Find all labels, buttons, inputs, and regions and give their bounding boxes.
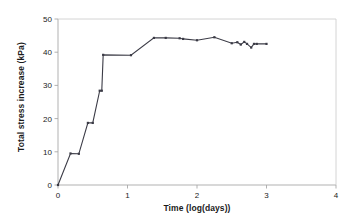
data-point-marker	[165, 37, 167, 39]
y-tick-label: 20	[43, 115, 52, 124]
data-point-marker	[253, 43, 255, 45]
data-point-marker	[265, 43, 267, 45]
x-tick-label: 3	[264, 191, 269, 200]
x-tick-group: 01234	[56, 185, 339, 200]
plot-frame	[58, 19, 336, 185]
y-tick-label: 0	[48, 181, 53, 190]
data-point-marker	[99, 90, 101, 92]
data-point-marker	[101, 90, 103, 92]
y-tick-label: 30	[43, 81, 52, 90]
data-point-marker	[87, 122, 89, 124]
data-point-marker	[256, 43, 258, 45]
x-tick-label: 0	[56, 191, 61, 200]
y-tick-label: 40	[43, 48, 52, 57]
plot-area: 01020304050 01234	[0, 0, 350, 224]
data-point-marker	[69, 152, 71, 154]
data-point-marker	[243, 41, 245, 43]
data-point-marker	[130, 54, 132, 56]
data-point-marker	[179, 37, 181, 39]
data-point-marker	[240, 43, 242, 45]
chart-figure: Total stress increase (kPa) Time (log(da…	[0, 0, 350, 224]
data-point-marker	[182, 38, 184, 40]
data-point-marker	[231, 42, 233, 44]
data-point-marker	[102, 54, 104, 56]
data-point-marker	[92, 122, 94, 124]
series-line	[58, 37, 267, 185]
data-point-marker	[78, 153, 80, 155]
data-point-marker	[246, 43, 248, 45]
y-tick-label: 50	[43, 15, 52, 24]
y-tick-label: 10	[43, 148, 52, 157]
data-point-marker	[196, 39, 198, 41]
data-point-marker	[213, 36, 215, 38]
data-series-group	[57, 36, 268, 186]
y-tick-group: 01020304050	[43, 15, 58, 190]
data-point-marker	[153, 37, 155, 39]
data-point-marker	[236, 41, 238, 43]
x-tick-label: 4	[334, 191, 339, 200]
x-tick-label: 2	[195, 191, 200, 200]
x-tick-label: 1	[125, 191, 130, 200]
series-markers	[57, 36, 268, 186]
data-point-marker	[250, 46, 252, 48]
data-point-marker	[57, 184, 59, 186]
